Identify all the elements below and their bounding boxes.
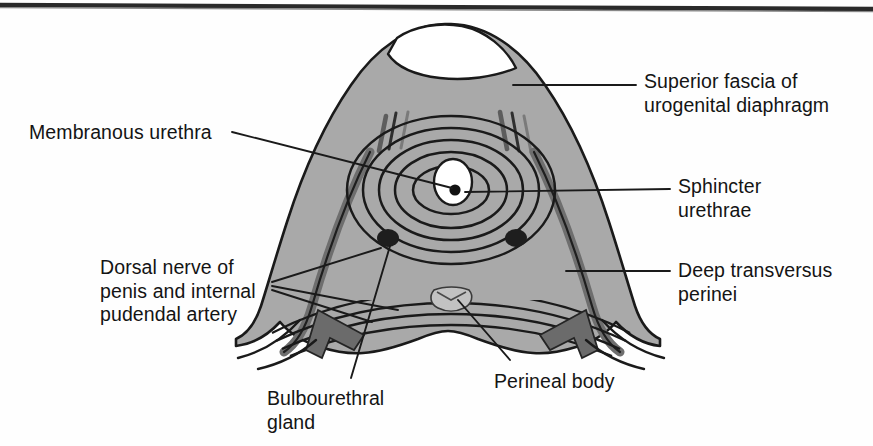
bulbourethral-gland-right [505, 229, 527, 247]
label-membranous-urethra: Membranous urethra [29, 121, 212, 145]
label-superior-fascia: Superior fascia of urogenital diaphragm [644, 70, 829, 117]
scan-top-rule [0, 5, 873, 12]
figure-page: Superior fascia of urogenital diaphragm … [0, 0, 873, 446]
label-bulbourethral-gland: Bulbourethral gland [267, 387, 384, 434]
label-deep-transversus-perinei: Deep transversus perinei [678, 259, 832, 306]
anatomical-diagram [0, 0, 873, 446]
label-perineal-body: Perineal body [494, 370, 615, 394]
superior-fascia-crescent [388, 25, 516, 79]
label-dorsal-nerve-pudendal-artery: Dorsal nerve of penis and internal puden… [100, 256, 256, 327]
bulbourethral-gland-left [377, 229, 399, 247]
membranous-urethra-lumen [434, 159, 472, 205]
label-sphincter-urethrae: Sphincter urethrae [678, 175, 761, 222]
